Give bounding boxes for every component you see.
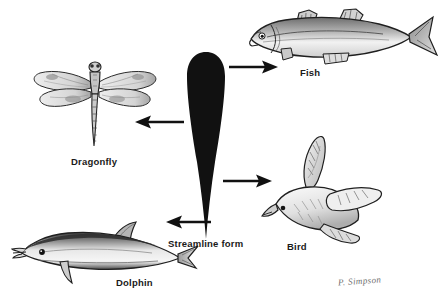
fish-label: Fish bbox=[300, 67, 320, 78]
illustration-canvas: Fish bbox=[0, 0, 441, 304]
artist-signature: P. Simpson bbox=[338, 275, 382, 288]
bird-illustration bbox=[258, 132, 384, 246]
dragonfly-label: Dragonfly bbox=[71, 156, 117, 167]
dragonfly-illustration bbox=[28, 60, 162, 152]
streamline-form-label: Streamline form bbox=[168, 238, 243, 249]
dolphin-label: Dolphin bbox=[116, 277, 153, 288]
bird-label: Bird bbox=[287, 241, 307, 252]
fish-illustration bbox=[243, 4, 439, 66]
dolphin-illustration bbox=[12, 218, 198, 286]
